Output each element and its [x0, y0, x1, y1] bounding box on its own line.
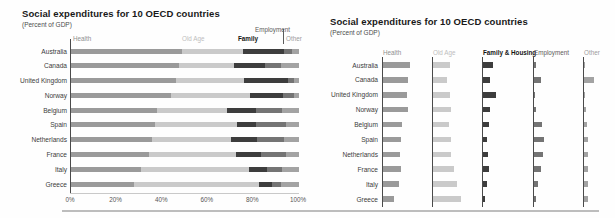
left-chart-subtitle: (Percent of GDP): [22, 21, 72, 28]
segment-employment: [265, 63, 281, 68]
mini-bar-other: [584, 122, 587, 128]
left-chart-x-axis: [70, 193, 299, 194]
right-country-label: Greece: [310, 196, 378, 203]
segment-health: [71, 122, 155, 127]
panel-header-other: Other: [584, 49, 600, 56]
mini-bar-employment: [534, 196, 536, 202]
segment-other: [292, 49, 299, 54]
mini-bar-old-age: [433, 152, 451, 158]
segment-family: [234, 63, 265, 68]
legend-label-other: Other: [286, 35, 302, 42]
stacked-bar: [71, 182, 299, 187]
left-country-label: United Kingdom: [0, 77, 67, 84]
stacked-bar: [71, 63, 299, 68]
stacked-bar: [71, 108, 299, 113]
mini-bar-health: [383, 62, 410, 68]
mini-bar-health: [383, 196, 394, 202]
segment-old-age: [134, 182, 259, 187]
x-tick-label: 60%: [194, 196, 220, 203]
segment-employment: [261, 152, 286, 157]
segment-other: [282, 167, 299, 172]
mini-bar-employment: [534, 92, 535, 98]
right-chart-subtitle: (Percent of GDP): [330, 29, 380, 36]
segment-employment: [256, 122, 287, 127]
right-country-label: Canada: [310, 76, 378, 83]
mini-bar-health: [383, 77, 408, 83]
segment-family: [236, 152, 261, 157]
legend-label-old-age: Old Age: [182, 35, 204, 42]
mini-bar-health: [383, 92, 407, 98]
segment-health: [71, 63, 179, 68]
left-country-label: Australia: [0, 48, 67, 55]
mini-bar-family: [483, 166, 489, 172]
right-country-label: United Kingdom: [310, 91, 378, 98]
mini-bar-family: [483, 62, 493, 68]
segment-old-age: [179, 63, 234, 68]
segment-employment: [256, 108, 282, 113]
figure: Social expenditures for 10 OECD countrie…: [0, 0, 615, 218]
left-country-label: Greece: [0, 181, 67, 188]
segment-family: [244, 78, 287, 83]
mini-bar-employment: [534, 122, 542, 128]
mini-bar-other: [584, 92, 585, 98]
segment-old-age: [176, 78, 244, 83]
x-tick-label: 20%: [103, 196, 129, 203]
mini-bar-other: [584, 152, 588, 158]
segment-family: [227, 108, 256, 113]
left-country-label: France: [0, 151, 67, 158]
left-country-label: Canada: [0, 62, 67, 69]
legend-label-family: Family: [238, 35, 258, 42]
segment-other: [286, 152, 299, 157]
segment-employment: [257, 137, 284, 142]
stacked-bar: [71, 93, 299, 98]
left-country-label: Norway: [0, 92, 67, 99]
legend-label-health: Health: [73, 35, 91, 42]
mini-bar-other: [584, 107, 586, 113]
right-country-label: Italy: [310, 181, 378, 188]
segment-old-age: [155, 122, 237, 127]
mini-bar-employment: [534, 62, 536, 68]
mini-bar-family: [483, 77, 490, 83]
right-country-label: Australia: [310, 62, 378, 69]
mini-bar-other: [584, 181, 588, 187]
segment-employment: [272, 182, 281, 187]
segment-other: [286, 122, 299, 127]
panel-header-employment: Employment: [534, 49, 569, 56]
mini-bar-family: [483, 122, 489, 128]
x-tick-label: 40%: [148, 196, 174, 203]
panel-header-health: Health: [383, 49, 401, 56]
mini-bar-old-age: [433, 166, 454, 172]
mini-bar-old-age: [433, 137, 451, 143]
left-chart-title: Social expenditures for 10 OECD countrie…: [22, 8, 220, 19]
mini-bar-other: [584, 166, 588, 172]
stacked-bar: [71, 137, 299, 142]
mini-bar-employment: [534, 77, 541, 83]
segment-other: [282, 108, 299, 113]
stacked-bar: [71, 49, 299, 54]
mini-bar-employment: [534, 137, 544, 143]
mini-bar-family: [483, 92, 496, 98]
left-country-label: Belgium: [0, 107, 67, 114]
segment-employment: [284, 49, 292, 54]
segment-old-age: [149, 152, 237, 157]
mini-bar-health: [383, 166, 401, 172]
mini-bar-family: [483, 181, 487, 187]
segment-other: [294, 93, 299, 98]
segment-old-age: [152, 137, 231, 142]
segment-family: [231, 137, 257, 142]
left-country-label: Spain: [0, 121, 67, 128]
x-tick-label: 80%: [239, 196, 265, 203]
segment-family: [249, 167, 267, 172]
segment-family: [243, 49, 284, 54]
segment-health: [71, 137, 152, 142]
segment-other: [281, 63, 299, 68]
segment-old-age: [157, 108, 228, 113]
mini-bar-employment: [534, 181, 538, 187]
left-country-label: Netherlands: [0, 136, 67, 143]
x-tick-label: 0%: [57, 196, 83, 203]
legend-separator-line: [283, 29, 284, 44]
mini-bar-family: [483, 152, 488, 158]
segment-old-age: [141, 167, 249, 172]
segment-old-age: [182, 49, 244, 54]
mini-bar-family: [483, 107, 490, 113]
